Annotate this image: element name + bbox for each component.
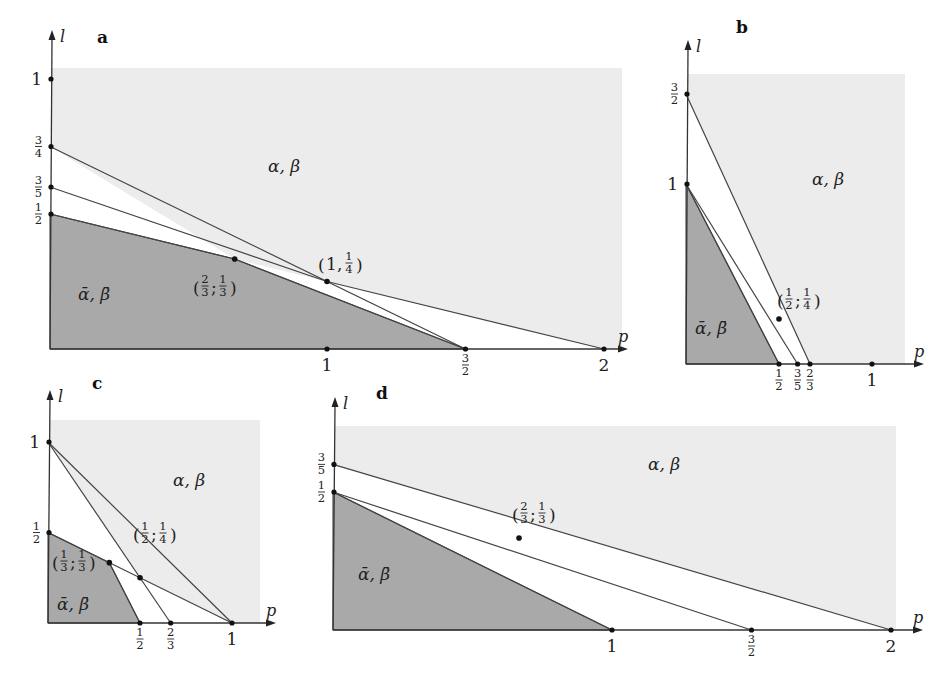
svg-text:1: 1: [78, 547, 85, 561]
tick-dot: [609, 627, 614, 632]
x-tick-label: 1: [322, 355, 333, 375]
svg-text:1: 1: [785, 285, 792, 299]
p-axis-arrow-icon: [914, 361, 924, 368]
svg-text:3: 3: [35, 133, 42, 147]
panel-letter: c: [92, 373, 102, 393]
svg-text:2: 2: [806, 366, 813, 380]
y-tick-label: 1: [29, 432, 40, 452]
svg-text:(: (: [318, 255, 325, 275]
svg-text:1: 1: [60, 547, 67, 561]
svg-text:3: 3: [748, 632, 755, 646]
tick-dot: [331, 462, 336, 467]
svg-text:1: 1: [136, 625, 143, 639]
l-axis-label: l: [58, 387, 63, 406]
x-tick-label: 23: [167, 625, 174, 652]
fraction: 13: [538, 499, 545, 526]
panel-d: pld35121322(23;13)α, βᾱ, β̄: [318, 383, 924, 659]
svg-text:4: 4: [159, 532, 166, 546]
l-axis-arrow-icon: [47, 390, 54, 400]
svg-text:3: 3: [35, 173, 42, 187]
intersection-point: [776, 316, 782, 322]
svg-text:2: 2: [318, 491, 325, 505]
y-tick-label: 12: [35, 200, 42, 227]
tick-dot: [229, 620, 234, 625]
svg-text:(: (: [133, 525, 140, 545]
svg-text:1: 1: [141, 519, 148, 533]
tick-dot: [48, 76, 53, 81]
p-axis-arrow-icon: [913, 627, 923, 634]
x-tick-label: 2: [886, 636, 897, 656]
intersection-point: [324, 279, 330, 285]
svg-text:1: 1: [322, 355, 333, 375]
panel-letter: d: [376, 383, 388, 403]
tick-dot: [684, 91, 689, 96]
svg-text:(: (: [193, 278, 200, 298]
svg-text:): ): [356, 255, 363, 275]
svg-text:3: 3: [462, 351, 469, 365]
svg-text:): ): [230, 278, 237, 298]
tick-dot: [46, 439, 51, 444]
svg-text:1: 1: [803, 285, 810, 299]
svg-text:4: 4: [803, 298, 810, 312]
y-tick-label: 12: [318, 478, 325, 505]
svg-text:1: 1: [219, 272, 226, 286]
fraction: 12: [141, 519, 148, 546]
y-tick-label: 35: [318, 450, 325, 477]
svg-text:): ): [549, 505, 556, 525]
fraction: 13: [219, 272, 226, 299]
svg-text:2: 2: [141, 532, 148, 546]
p-axis-label: p: [618, 327, 628, 346]
x-tick-label: 32: [462, 351, 469, 378]
region-label-alpha-bar-beta-bar: ᾱ, β̄: [78, 284, 110, 304]
y-tick-label: 12: [33, 519, 40, 546]
svg-text:(: (: [512, 505, 519, 525]
x-tick-label: 12: [136, 625, 143, 652]
svg-text:(: (: [52, 553, 59, 573]
svg-text:1: 1: [31, 69, 42, 89]
x-tick-label: 23: [806, 366, 813, 393]
region-label-alpha-beta: α, β: [268, 156, 300, 176]
svg-text:2: 2: [167, 625, 174, 639]
tick-dot: [869, 361, 874, 366]
svg-text:1: 1: [318, 478, 325, 492]
tick-dot: [331, 489, 336, 494]
fraction: 14: [803, 285, 810, 312]
svg-text:1: 1: [775, 366, 782, 380]
svg-text:4: 4: [345, 262, 352, 276]
svg-text:2: 2: [201, 272, 208, 286]
l-axis-arrow-icon: [49, 30, 56, 40]
svg-text:1: 1: [667, 174, 678, 194]
svg-text:3: 3: [794, 366, 801, 380]
svg-text:2: 2: [462, 364, 469, 378]
svg-text:2: 2: [33, 532, 40, 546]
l-axis-arrow-icon: [685, 40, 692, 50]
svg-text:1: 1: [345, 249, 352, 263]
x-tick-label: 1: [867, 370, 878, 390]
l-axis-label: l: [696, 37, 701, 56]
svg-text:1: 1: [867, 370, 878, 390]
svg-text:1: 1: [538, 499, 545, 513]
svg-text:5: 5: [35, 186, 42, 200]
p-axis-label: p: [266, 601, 276, 620]
intersection-point: [137, 575, 143, 581]
svg-text:;: ;: [151, 524, 157, 544]
panel-a: pla13435121322(23;13)(1,14)α, βᾱ, β̄: [31, 27, 628, 378]
l-axis-arrow-icon: [332, 397, 339, 407]
svg-text:1: 1: [607, 636, 618, 656]
region-label-alpha-beta: α, β: [648, 454, 680, 474]
svg-text:5: 5: [794, 379, 801, 393]
tick-dot: [684, 181, 689, 186]
fraction: 13: [78, 547, 85, 574]
svg-text:2: 2: [748, 645, 755, 659]
x-tick-label: 1: [227, 629, 238, 649]
fraction: 23: [201, 272, 208, 299]
y-tick-label: 34: [35, 133, 42, 160]
svg-text:3: 3: [538, 512, 545, 526]
region-label-alpha-bar-beta-bar: ᾱ, β̄: [695, 318, 727, 338]
phase-diagram-figure: pla13435121322(23;13)(1,14)α, βᾱ, β̄ plb…: [0, 0, 947, 695]
region-label-alpha-beta: α, β: [173, 470, 205, 490]
svg-text:3: 3: [201, 285, 208, 299]
svg-text:3: 3: [671, 80, 678, 94]
y-tick-label: 1: [31, 69, 42, 89]
svg-text:;: ;: [70, 552, 76, 572]
